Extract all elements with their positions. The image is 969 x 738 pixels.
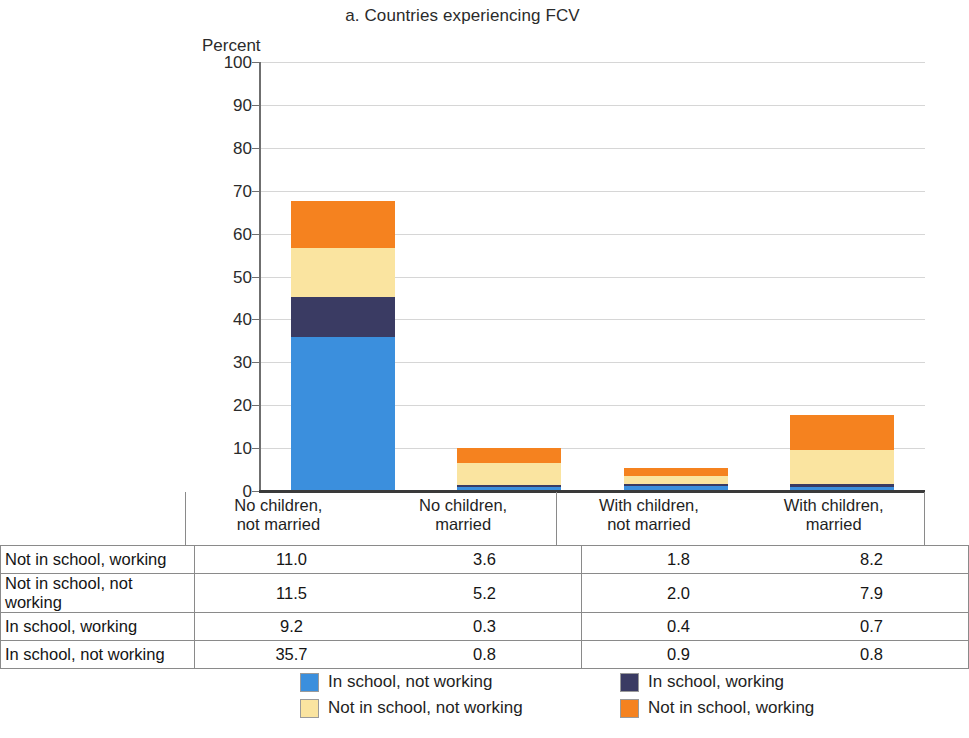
bar-slot-1 <box>260 62 426 491</box>
table-cell: 5.2 <box>388 574 582 613</box>
stacked-bar[interactable] <box>457 448 561 490</box>
table-cell: 7.9 <box>775 574 969 613</box>
y-tick-label-70: 70 <box>192 182 252 199</box>
legend-swatch-icon <box>300 699 319 718</box>
table-row: Not in school, not working11.55.22.07.9 <box>1 574 969 613</box>
category-label-line2: married <box>371 515 556 534</box>
table-cell: 9.2 <box>195 613 389 641</box>
legend-swatch-icon <box>300 673 319 692</box>
table-row-label: Not in school, not working <box>1 574 195 613</box>
table-row-label: In school, not working <box>1 641 195 669</box>
chart-title: a. Countries experiencing FCV <box>0 6 925 26</box>
category-label-line1: With children, <box>741 496 926 515</box>
data-table: Not in school, working11.03.61.88.2Not i… <box>0 545 969 669</box>
legend-item[interactable]: In school, not working <box>300 672 620 692</box>
category-label-2: No children,married <box>371 492 556 545</box>
y-tick-label-30: 30 <box>192 354 252 371</box>
y-axis-tick-labels: 1009080706050403020100 <box>190 62 252 492</box>
category-label-1: No children,not married <box>186 492 371 545</box>
bar-segment[interactable] <box>624 476 728 485</box>
table-cell: 11.0 <box>195 546 389 574</box>
table-row: In school, working9.20.30.40.7 <box>1 613 969 641</box>
bar-segment[interactable] <box>291 201 395 248</box>
category-label-line1: With children, <box>557 496 742 515</box>
stacked-bar[interactable] <box>790 415 894 490</box>
y-tick-label-40: 40 <box>192 311 252 328</box>
table-cell: 35.7 <box>195 641 389 669</box>
table-cell: 1.8 <box>582 546 776 574</box>
bar-segment[interactable] <box>624 468 728 476</box>
y-tick-label-50: 50 <box>192 268 252 285</box>
stacked-bar[interactable] <box>624 468 728 490</box>
table-cell: 11.5 <box>195 574 389 613</box>
bar-segment[interactable] <box>291 337 395 490</box>
y-tick-label-80: 80 <box>192 139 252 156</box>
table-cell: 2.0 <box>582 574 776 613</box>
legend-swatch-icon <box>620 673 639 692</box>
table-row-label: Not in school, working <box>1 546 195 574</box>
category-label-line1: No children, <box>186 496 371 515</box>
legend-item[interactable]: Not in school, working <box>620 698 920 718</box>
table-row: Not in school, working11.03.61.88.2 <box>1 546 969 574</box>
category-strip-right-border <box>924 492 925 545</box>
legend-label: In school, working <box>648 672 784 692</box>
table-cell: 0.4 <box>582 613 776 641</box>
bar-segment[interactable] <box>291 248 395 297</box>
table-cell: 3.6 <box>388 546 582 574</box>
bar-segment[interactable] <box>457 463 561 485</box>
stacked-bars-container <box>260 62 925 491</box>
bar-segment[interactable] <box>291 297 395 336</box>
bar-segment[interactable] <box>457 448 561 463</box>
y-tick-label-20: 20 <box>192 397 252 414</box>
bar-slot-3 <box>593 62 759 491</box>
legend-swatch-icon <box>620 699 639 718</box>
y-tick-label-90: 90 <box>192 96 252 113</box>
category-label-4: With children,married <box>741 492 926 545</box>
y-tick-label-100: 100 <box>192 54 252 71</box>
category-label-line2: not married <box>186 515 371 534</box>
data-table-body: Not in school, working11.03.61.88.2Not i… <box>1 546 969 669</box>
category-label-3: With children,not married <box>556 492 742 545</box>
legend-item[interactable]: In school, working <box>620 672 920 692</box>
table-cell: 0.8 <box>388 641 582 669</box>
category-label-line2: married <box>741 515 926 534</box>
table-row: In school, not working35.70.80.90.8 <box>1 641 969 669</box>
table-cell: 8.2 <box>775 546 969 574</box>
y-tick-label-10: 10 <box>192 440 252 457</box>
chart-legend: In school, not workingIn school, working… <box>300 672 925 718</box>
legend-label: Not in school, not working <box>328 698 523 718</box>
legend-item[interactable]: Not in school, not working <box>300 698 620 718</box>
table-cell: 0.9 <box>582 641 776 669</box>
category-label-line1: No children, <box>371 496 556 515</box>
bar-slot-4 <box>759 62 925 491</box>
bar-segment[interactable] <box>790 415 894 450</box>
plot-area: 1009080706050403020100 <box>0 62 925 492</box>
category-labels-strip: No children,not marriedNo children,marri… <box>185 492 926 545</box>
y-tick-label-60: 60 <box>192 225 252 242</box>
table-cell: 0.8 <box>775 641 969 669</box>
table-cell: 0.3 <box>388 613 582 641</box>
bar-slot-2 <box>426 62 592 491</box>
table-row-label: In school, working <box>1 613 195 641</box>
bar-segment[interactable] <box>790 450 894 484</box>
legend-label: In school, not working <box>328 672 492 692</box>
legend-label: Not in school, working <box>648 698 814 718</box>
category-label-line2: not married <box>557 515 742 534</box>
table-cell: 0.7 <box>775 613 969 641</box>
stacked-bar[interactable] <box>291 201 395 490</box>
